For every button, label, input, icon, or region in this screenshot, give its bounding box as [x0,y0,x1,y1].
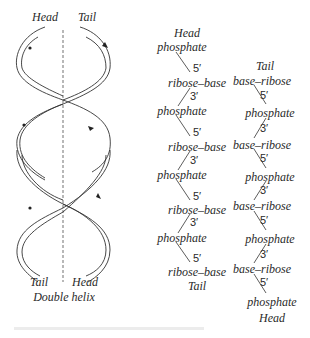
right-strand-prime: 5′ [260,90,268,101]
left-strand-item: ribose–base [168,77,226,89]
right-strand-top-label: Tail [256,60,274,72]
right-strand-item: base–ribose [233,200,291,212]
right-strand-prime: 5′ [260,215,268,226]
left-strand-prime: 3′ [190,91,198,102]
left-strand-item: phosphate [157,169,206,181]
strand-arrow-icon [22,123,25,126]
left-strand-bottom-label: Tail [188,280,206,292]
right-strand-item: base–ribose [233,263,291,275]
right-strand-item: base–ribose [233,75,291,87]
right-strand-prime: 3′ [260,185,268,196]
faded-caption-line [14,327,204,330]
right-strand-item: phosphate [245,233,294,245]
strand-arrow-icon [28,46,31,49]
right-strand-prime: 3′ [260,249,268,260]
right-strand-item: phosphate [247,296,296,308]
right-strand-item: phosphate [245,171,294,183]
helix-tail-label-top: Tail [78,11,96,23]
right-strand-item: base–ribose [233,139,291,151]
right-strand-item: phosphate [245,107,294,119]
left-strand-prime: 5′ [193,127,201,138]
left-strand-prime: 5′ [193,253,201,264]
left-strand-prime: 3′ [190,217,198,228]
helix-head-label-top: Head [32,11,58,23]
left-strand-item: phosphate [157,105,206,117]
left-strand-item: ribose–base [168,266,226,278]
double-helix-figure: Head Tail Tail Head Double helix Head ph… [0,0,310,338]
strand-arrow-icon [88,126,94,131]
strand-arrow-icon [28,206,31,209]
right-strand-bottom-label: Head [259,312,285,324]
left-strand-prime: 5′ [193,63,201,74]
helix-tail-label-bottom: Tail [30,276,48,288]
right-strand-prime: 5′ [260,153,268,164]
right-strand-prime: 3′ [260,123,268,134]
left-strand-item: ribose–base [168,141,226,153]
left-strand-item: ribose–base [168,204,226,216]
left-strand-prime: 5′ [193,191,201,202]
helix-caption: Double helix [33,291,95,303]
left-strand-item: phosphate [157,232,206,244]
left-strand-prime: 3′ [190,155,198,166]
helix-head-label-bottom: Head [72,276,98,288]
left-strand-item: phosphate [157,41,206,53]
strand-arrow-icon [96,193,101,199]
left-strand-top-label: Head [174,27,200,39]
right-strand-prime: 5′ [260,277,268,288]
